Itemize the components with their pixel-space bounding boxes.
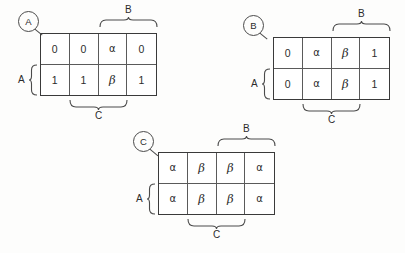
cell: α — [303, 69, 332, 100]
cell-value: 1 — [52, 74, 58, 86]
cell-value: 0 — [81, 43, 87, 55]
panel-a-grid: 0 0 α 0 1 1 β 1 — [40, 33, 157, 96]
panel-a-left-brace-label: A — [18, 74, 25, 85]
cell: 1 — [360, 69, 389, 100]
panel-b-left-brace-label: A — [251, 78, 258, 89]
cell-value: 0 — [285, 47, 291, 59]
panel-b-top-brace-label: B — [358, 8, 365, 19]
cell-value: 0 — [139, 43, 145, 55]
cell: β — [217, 153, 246, 184]
panel-c-bottom-brace-label: C — [213, 229, 220, 240]
cell: 1 — [360, 38, 389, 69]
panel-b-bottom-brace — [302, 103, 361, 114]
cell-value: β — [227, 161, 234, 175]
cell: 0 — [70, 34, 99, 65]
cell-value: β — [109, 73, 116, 87]
cell: α — [159, 184, 188, 215]
panel-c-left-brace-label: A — [136, 193, 143, 204]
cell: α — [99, 34, 128, 65]
cell: α — [303, 38, 332, 69]
cell: 0 — [41, 34, 70, 65]
cell-value: 1 — [81, 74, 87, 86]
panel-a-bottom-brace — [69, 99, 128, 110]
panel-b-callout-badge: B — [243, 15, 264, 36]
panel-c-bottom-brace — [187, 218, 246, 229]
cell-value: β — [342, 77, 349, 91]
panel-c-top-brace — [217, 136, 276, 147]
cell-value: α — [313, 47, 320, 58]
cell: β — [332, 69, 361, 100]
cell-value: α — [256, 162, 263, 173]
panel-a-callout-badge: A — [18, 11, 39, 32]
panel-c-callout-label: C — [140, 136, 147, 147]
cell: 0 — [274, 69, 303, 100]
cell-value: 1 — [372, 47, 378, 59]
cell-value: β — [198, 192, 205, 206]
cell: β — [99, 65, 128, 96]
cell: α — [245, 184, 274, 215]
cell-value: α — [169, 193, 176, 204]
cell-value: 1 — [139, 74, 145, 86]
cell: β — [188, 184, 217, 215]
cell-value: 0 — [285, 78, 291, 90]
panel-c-callout-badge: C — [133, 131, 154, 152]
cell: 1 — [127, 65, 156, 96]
cell: β — [217, 184, 246, 215]
cell-value: β — [198, 161, 205, 175]
panel-c-grid: α β β α α β β α — [158, 152, 275, 215]
cell: α — [159, 153, 188, 184]
panel-a-bottom-brace-label: C — [95, 110, 102, 121]
cell: 0 — [274, 38, 303, 69]
panel-a-top-brace-label: B — [125, 4, 132, 15]
panel-a-top-brace — [99, 17, 158, 28]
cell-value: 1 — [372, 78, 378, 90]
panel-b-top-brace — [332, 21, 391, 32]
panel-c-top-brace-label: B — [243, 123, 250, 134]
cell-value: 0 — [52, 43, 58, 55]
panel-b-left-brace — [262, 68, 271, 100]
cell-value: α — [313, 78, 320, 89]
cell: β — [332, 38, 361, 69]
cell-value: β — [342, 46, 349, 60]
cell-value: α — [109, 43, 116, 54]
panel-a-callout-label: A — [25, 16, 31, 27]
panel-b-bottom-brace-label: C — [328, 114, 335, 125]
cell: β — [188, 153, 217, 184]
cell: α — [245, 153, 274, 184]
cell: 1 — [70, 65, 99, 96]
panel-b-grid: 0 α β 1 0 α β 1 — [273, 37, 390, 100]
figure-canvas: A B A 0 0 α 0 1 1 β 1 — [0, 0, 405, 253]
panel-c-left-brace — [147, 183, 156, 215]
panel-b-callout-label: B — [250, 20, 256, 31]
cell-value: α — [169, 162, 176, 173]
cell-value: α — [256, 193, 263, 204]
panel-a-left-brace — [29, 64, 38, 96]
cell-value: β — [227, 192, 234, 206]
cell: 0 — [127, 34, 156, 65]
cell: 1 — [41, 65, 70, 96]
